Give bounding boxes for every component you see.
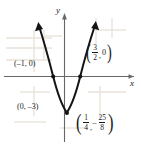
- comma: ,: [99, 52, 101, 61]
- close-paren: ): [107, 44, 112, 61]
- label-y-intercept: (0, –3): [17, 103, 38, 111]
- label-x-intercept-left: (–1, 0): [14, 60, 35, 68]
- left-branch-arrowhead: [35, 22, 43, 31]
- point-x-intercept-right: [78, 74, 82, 78]
- graph-canvas: [0, 0, 141, 146]
- y-axis-label: y: [56, 6, 60, 15]
- close-paren: ): [108, 113, 114, 133]
- fraction-twentyfive-eighths: 25 8: [97, 114, 107, 131]
- fraction-three-halves: 3 2: [92, 44, 98, 61]
- parabola-curve: [40, 27, 95, 113]
- label-vertex: ( 1 4 , – 25 8 ): [75, 113, 115, 133]
- point-vertex: [65, 111, 69, 115]
- zero-value: 0: [102, 49, 106, 57]
- open-paren: (: [76, 113, 82, 133]
- fraction-one-quarter: 1 4: [83, 114, 89, 131]
- open-paren: (: [86, 44, 91, 61]
- minus-sign: –: [92, 119, 96, 127]
- parabola-figure: y x (–1, 0) (0, –3) ( 3 2 , 0 ) ( 1 4 , …: [0, 0, 141, 146]
- right-branch-arrowhead: [91, 21, 99, 30]
- label-x-intercept-right: ( 3 2 , 0 ): [85, 44, 113, 61]
- x-axis-label: x: [130, 79, 134, 88]
- point-x-intercept-left: [51, 74, 55, 78]
- y-axis-arrowhead: [62, 13, 67, 20]
